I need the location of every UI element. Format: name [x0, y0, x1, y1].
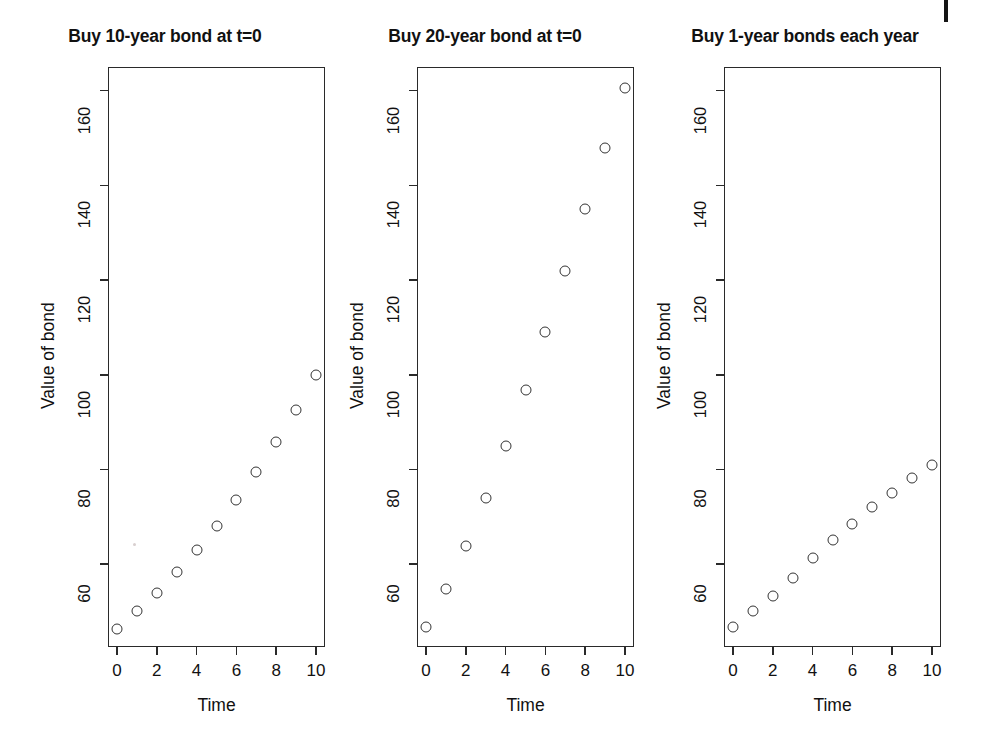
- data-point: [727, 621, 738, 632]
- figure-canvas: Buy 10-year bond at t=060801001201401600…: [0, 0, 989, 731]
- plot-area: [724, 67, 941, 647]
- x-tick-mark: [156, 647, 158, 655]
- y-tick-mark: [409, 374, 417, 376]
- x-tick-mark: [425, 647, 427, 655]
- y-tick-label: 80: [384, 479, 403, 519]
- data-point: [560, 265, 571, 276]
- y-tick-mark: [100, 90, 108, 92]
- y-axis-title: Value of bond: [38, 302, 59, 409]
- y-tick-label: 160: [75, 100, 94, 140]
- y-tick-label: 100: [384, 384, 403, 424]
- plot-area: [417, 67, 634, 647]
- x-tick-mark: [196, 647, 198, 655]
- data-point: [787, 573, 798, 584]
- data-point: [580, 204, 591, 215]
- y-tick-mark: [409, 185, 417, 187]
- y-tick-mark: [716, 469, 724, 471]
- y-tick-label: 120: [384, 290, 403, 330]
- chart-panel-3: Buy 1-year bonds each year60801001201401…: [640, 0, 970, 731]
- data-point: [171, 567, 182, 578]
- x-tick-mark: [236, 647, 238, 655]
- panel-title: Buy 10-year bond at t=0: [0, 26, 330, 47]
- data-point: [887, 488, 898, 499]
- data-point: [231, 495, 242, 506]
- x-tick-label: 6: [232, 661, 241, 681]
- x-tick-mark: [812, 647, 814, 655]
- x-tick-mark: [732, 647, 734, 655]
- y-tick-label: 100: [75, 384, 94, 424]
- data-point: [600, 143, 611, 154]
- y-tick-mark: [716, 279, 724, 281]
- data-point: [291, 404, 302, 415]
- data-point: [131, 606, 142, 617]
- plot-area: [108, 67, 325, 647]
- y-tick-mark: [409, 469, 417, 471]
- y-tick-mark: [100, 563, 108, 565]
- y-tick-label: 140: [75, 195, 94, 235]
- x-tick-mark: [852, 647, 854, 655]
- data-point: [111, 624, 122, 635]
- x-tick-label: 2: [152, 661, 161, 681]
- y-tick-label: 60: [691, 574, 710, 614]
- y-tick-label: 80: [75, 479, 94, 519]
- chart-panel-1: Buy 10-year bond at t=060801001201401600…: [0, 0, 330, 731]
- data-point: [807, 553, 818, 564]
- data-point: [420, 621, 431, 632]
- x-tick-label: 0: [112, 661, 121, 681]
- data-point: [907, 472, 918, 483]
- y-tick-mark: [716, 185, 724, 187]
- data-point: [480, 492, 491, 503]
- y-tick-label: 60: [384, 574, 403, 614]
- data-point: [520, 384, 531, 395]
- y-tick-label: 140: [691, 195, 710, 235]
- data-point: [767, 591, 778, 602]
- x-tick-mark: [315, 647, 317, 655]
- y-tick-mark: [100, 279, 108, 281]
- panel-title: Buy 20-year bond at t=0: [320, 26, 650, 47]
- x-tick-mark: [584, 647, 586, 655]
- x-tick-label: 4: [192, 661, 201, 681]
- data-point: [827, 534, 838, 545]
- data-point: [191, 544, 202, 555]
- x-tick-label: 4: [501, 661, 510, 681]
- y-tick-label: 100: [691, 384, 710, 424]
- data-point: [151, 587, 162, 598]
- data-point: [460, 541, 471, 552]
- x-tick-label: 6: [541, 661, 550, 681]
- data-point: [211, 520, 222, 531]
- data-point: [927, 459, 938, 470]
- chart-panel-2: Buy 20-year bond at t=060801001201401600…: [320, 0, 650, 731]
- y-axis-title: Value of bond: [347, 302, 368, 409]
- data-point: [271, 437, 282, 448]
- x-tick-label: 8: [580, 661, 589, 681]
- y-tick-mark: [409, 90, 417, 92]
- data-point: [747, 606, 758, 617]
- y-tick-mark: [409, 279, 417, 281]
- y-tick-label: 60: [75, 574, 94, 614]
- x-tick-mark: [772, 647, 774, 655]
- x-tick-label: 0: [421, 661, 430, 681]
- y-tick-label: 160: [384, 100, 403, 140]
- x-tick-label: 2: [461, 661, 470, 681]
- y-axis-title: Value of bond: [654, 302, 675, 409]
- x-tick-label: 8: [271, 661, 280, 681]
- x-tick-label: 10: [923, 661, 942, 681]
- data-point: [867, 502, 878, 513]
- y-tick-mark: [100, 185, 108, 187]
- x-tick-mark: [116, 647, 118, 655]
- y-tick-mark: [100, 374, 108, 376]
- y-tick-mark: [716, 90, 724, 92]
- x-tick-mark: [505, 647, 507, 655]
- x-tick-mark: [931, 647, 933, 655]
- y-tick-mark: [716, 374, 724, 376]
- x-tick-mark: [624, 647, 626, 655]
- data-point: [440, 583, 451, 594]
- panel-title: Buy 1-year bonds each year: [640, 26, 970, 47]
- x-tick-mark: [465, 647, 467, 655]
- data-point: [847, 518, 858, 529]
- data-point: [500, 440, 511, 451]
- y-tick-mark: [716, 563, 724, 565]
- data-point: [620, 83, 631, 94]
- x-tick-label: 8: [887, 661, 896, 681]
- x-tick-mark: [275, 647, 277, 655]
